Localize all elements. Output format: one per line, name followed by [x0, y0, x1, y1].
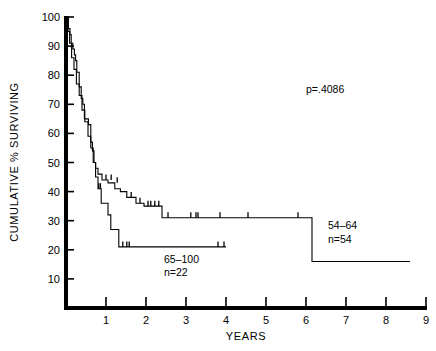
y-axis-tick-label: 10 [48, 273, 60, 285]
y-axis-tick-label: 60 [48, 127, 60, 139]
y-axis-tick-label: 80 [48, 69, 60, 81]
x-axis-tick-label: 4 [223, 314, 229, 326]
y-axis-tick-label: 100 [42, 11, 60, 23]
survival-curve-65-100 [66, 17, 226, 247]
survival-curve-figure: 102030405060708090100 123456789 YEARS CU… [0, 0, 436, 351]
annotation-group-54-64-label-line2: n=54 [328, 233, 352, 245]
y-axis-tick-label: 40 [48, 186, 60, 198]
censoring-marks [99, 174, 298, 246]
annotation-group-65-100-label-line1: 65–100 [164, 253, 199, 265]
y-axis-tick-label: 20 [48, 244, 60, 256]
x-axis-title: YEARS [226, 330, 266, 342]
survival-curves [66, 17, 410, 261]
x-axis-tick-label: 9 [423, 314, 429, 326]
y-axis-tick-label: 90 [48, 40, 60, 52]
plot-axes [64, 16, 427, 309]
y-axis-tick-label: 50 [48, 157, 60, 169]
x-axis-tick-label: 8 [383, 314, 389, 326]
x-axis-tick-label: 6 [303, 314, 309, 326]
x-axis-tick-label: 5 [263, 314, 269, 326]
x-axis-tick-label: 1 [103, 314, 109, 326]
y-axis-title: CUMULATIVE % SURVIVING [8, 82, 20, 242]
annotation-p-value: p=.4086 [306, 83, 344, 95]
survival-curve-54-64 [66, 17, 410, 261]
x-axis-ticks [106, 297, 426, 306]
x-axis-tick-label: 2 [143, 314, 149, 326]
annotation-group-65-100-label-line2: n=22 [164, 266, 188, 278]
annotation-group-54-64-label-line1: 54–64 [328, 219, 357, 231]
chart-annotations: p=.408654–64n=5465–100n=22 [164, 83, 357, 278]
y-axis-tick-label: 70 [48, 98, 60, 110]
kaplan-meier-plot: 102030405060708090100 123456789 YEARS CU… [0, 0, 436, 351]
y-axis-tick-label: 30 [48, 215, 60, 227]
y-axis-tick-labels: 102030405060708090100 [42, 11, 60, 285]
x-axis-tick-label: 7 [343, 314, 349, 326]
x-axis-tick-labels: 123456789 [103, 314, 429, 326]
x-axis-tick-label: 3 [183, 314, 189, 326]
